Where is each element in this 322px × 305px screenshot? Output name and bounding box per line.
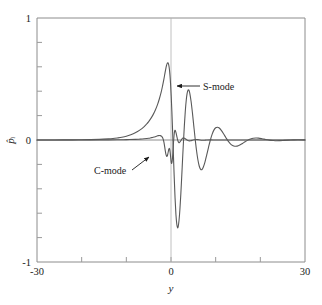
y-tick-label-top: 1 — [26, 13, 31, 24]
x-tick-label-left: -30 — [30, 266, 44, 277]
annotation-arrow-c-mode — [132, 157, 149, 170]
chart-svg: 1 0 -1 -30 0 30 y p̂ᵢ S-mode C-mode — [0, 0, 322, 305]
x-axis-title: y — [168, 282, 174, 294]
x-tick-label-center: 0 — [168, 266, 173, 277]
annotation-label-s-mode: S-mode — [203, 81, 235, 92]
y-axis-title: p̂ᵢ — [4, 136, 16, 145]
figure-container: 1 0 -1 -30 0 30 y p̂ᵢ S-mode C-mode — [0, 0, 322, 305]
x-tick-label-right: 30 — [300, 266, 311, 277]
y-tick-label-zero: 0 — [26, 135, 31, 146]
annotation-label-c-mode: C-mode — [94, 165, 127, 176]
